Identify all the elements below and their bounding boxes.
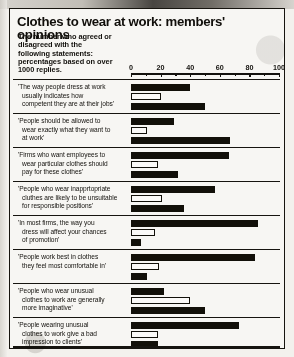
x-axis-tick-label: 80: [245, 63, 253, 72]
statement-label-line: 'The way people dress at work: [18, 83, 130, 92]
statement-label-line: pay for these clothes': [18, 168, 130, 177]
bar-1: [131, 118, 174, 125]
statement-row: 'In most firms, the way youdress will af…: [13, 215, 280, 249]
x-axis-tick-major: [131, 73, 132, 77]
x-axis: 020406080100: [131, 63, 279, 77]
bar-group: [131, 84, 279, 112]
statement-label: 'People should be allowed towear exactly…: [18, 117, 130, 143]
statement-label-line: they feel most comfortable in': [18, 262, 130, 271]
x-axis-tick-major: [279, 73, 280, 77]
x-axis-tick-minor: [175, 73, 176, 76]
bar-3: [131, 103, 205, 110]
x-axis-tick-major: [190, 73, 191, 77]
bar-1: [131, 254, 255, 261]
bar-2: [131, 297, 190, 304]
bar-group: [131, 186, 279, 214]
bar-1: [131, 220, 258, 227]
bar-3: [131, 137, 230, 144]
bar-2: [131, 195, 162, 202]
statement-label-line: clothes to work give a bad: [18, 330, 130, 339]
statement-label-line: 'People who wear inapprtopriate: [18, 185, 130, 194]
bar-2: [131, 93, 161, 100]
bar-2: [131, 229, 155, 236]
statement-label-line: cluthes are likely to be unsuitable: [18, 194, 130, 203]
x-axis-tick-minor: [146, 73, 147, 76]
statement-label-line: dress will affect your chances: [18, 228, 130, 237]
chart-subtitle: The number who agreed or disagreed with …: [18, 33, 128, 74]
bar-3: [131, 273, 147, 280]
x-axis-tick-minor: [235, 73, 236, 76]
statement-label-line: clothes to work are generally: [18, 296, 130, 305]
statement-label-line: 'Firms who want employees to: [18, 151, 130, 160]
statement-label-line: 'People should be allowed to: [18, 117, 130, 126]
statement-label-line: at work': [18, 134, 130, 143]
statement-row: 'The way people dress at workusually ind…: [13, 79, 280, 113]
bar-3: [131, 171, 178, 178]
statement-label-line: wear particular clothes should: [18, 160, 130, 169]
scan-artifact-left: [0, 0, 7, 357]
x-axis-tick-minor: [264, 73, 265, 76]
statement-label-line: usually indicates how: [18, 92, 130, 101]
bar-2: [131, 263, 159, 270]
bar-group: [131, 322, 279, 350]
bar-group: [131, 254, 279, 282]
statement-rows: 'The way people dress at workusually ind…: [13, 79, 280, 351]
bar-2: [131, 331, 158, 338]
statement-row: 'People work best in clothesthey feel mo…: [13, 249, 280, 283]
chart-frame: Clothes to wear at work: members' opinio…: [9, 8, 285, 349]
bar-group: [131, 288, 279, 316]
bar-group: [131, 220, 279, 248]
statement-label-line: more imaginative': [18, 304, 130, 313]
x-axis-tick-major: [161, 73, 162, 77]
x-axis-tick-label: 20: [157, 63, 165, 72]
statement-label-line: of promotion': [18, 236, 130, 245]
statement-row: 'People who wear unusualclothes to work …: [13, 283, 280, 317]
statement-label: 'People work best in clothesthey feel mo…: [18, 253, 130, 270]
subtitle-line-5: 1000 replies.: [18, 66, 128, 74]
statement-label-line: 'In most firms, the way you: [18, 219, 130, 228]
bar-1: [131, 186, 215, 193]
x-axis-tick-label: 60: [216, 63, 224, 72]
bar-group: [131, 118, 279, 146]
bar-3: [131, 239, 141, 246]
statement-label: 'Firms who want employees towear particu…: [18, 151, 130, 177]
x-axis-tick-minor: [205, 73, 206, 76]
statement-row: 'People should be allowed towear exactly…: [13, 113, 280, 147]
x-axis-tick-label: 0: [129, 63, 133, 72]
bar-2: [131, 161, 158, 168]
bar-1: [131, 84, 190, 91]
bar-3: [131, 307, 205, 314]
x-axis-tick-label: 100: [273, 63, 285, 72]
bar-1: [131, 322, 239, 329]
statement-label: 'People wearing unusualclothes to work g…: [18, 321, 130, 347]
statement-label-line: competent they are at their jobs': [18, 100, 130, 109]
statement-label-line: 'People work best in clothes: [18, 253, 130, 262]
bar-3: [131, 205, 184, 212]
statement-label: 'People who wear unusualclothes to work …: [18, 287, 130, 313]
statement-label: 'The way people dress at workusually ind…: [18, 83, 130, 109]
statement-row: 'People who wear inapprtopriatecluthes a…: [13, 181, 280, 215]
bar-group: [131, 152, 279, 180]
x-axis-tick-major: [249, 73, 250, 77]
statement-label-line: 'People who wear unusual: [18, 287, 130, 296]
bar-1: [131, 152, 229, 159]
statement-row: 'Firms who want employees towear particu…: [13, 147, 280, 181]
bar-1: [131, 288, 164, 295]
chart-bottom-rule: [13, 346, 280, 348]
statement-label: 'People who wear inapprtopriatecluthes a…: [18, 185, 130, 211]
bar-2: [131, 127, 147, 134]
x-axis-tick-major: [220, 73, 221, 77]
statement-label-line: for responsible positions': [18, 202, 130, 211]
chart-page: Clothes to wear at work: members' opinio…: [0, 0, 294, 357]
statement-label-line: wear exactly what they want to: [18, 126, 130, 135]
statement-label-line: 'People wearing unusual: [18, 321, 130, 330]
x-axis-tick-label: 40: [186, 63, 194, 72]
statement-label: 'In most firms, the way youdress will af…: [18, 219, 130, 245]
